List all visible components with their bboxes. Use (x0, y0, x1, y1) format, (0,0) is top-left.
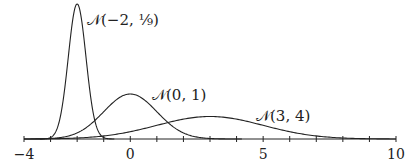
density-curves (24, 4, 396, 139)
x-tick-label: −4 (14, 146, 35, 162)
curve-labels: 𝒩(−2, ⅑)𝒩(0, 1)𝒩(3, 4) (87, 11, 310, 125)
x-tick-label: 5 (259, 146, 268, 162)
curve-label: 𝒩(0, 1) (152, 86, 206, 104)
chart: −40510 𝒩(−2, ⅑)𝒩(0, 1)𝒩(3, 4) (0, 0, 418, 166)
curve-label: 𝒩(3, 4) (256, 107, 310, 125)
x-tick-label: 10 (387, 146, 405, 162)
x-axis-tick-labels: −40510 (14, 146, 405, 162)
x-tick-label: 0 (126, 146, 135, 162)
curve-label: 𝒩(−2, ⅑) (87, 11, 159, 29)
density-curve (24, 117, 396, 139)
